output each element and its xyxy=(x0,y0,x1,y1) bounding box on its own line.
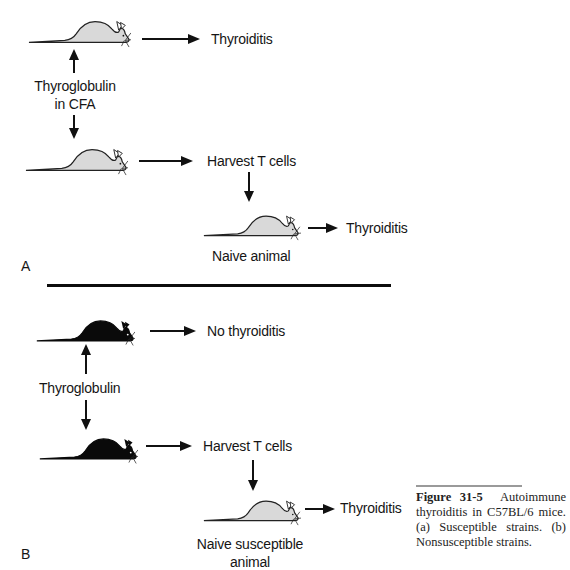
mouse-icon xyxy=(201,494,301,526)
immunization-label-1: Thyroglobulin xyxy=(32,78,118,94)
arrow-right-icon xyxy=(139,156,193,166)
caption-label: Figure 31-5 xyxy=(416,490,483,504)
outcome-label: Thyroiditis xyxy=(346,220,408,236)
recipient-label-1: Naive susceptible xyxy=(190,536,310,552)
panel-divider xyxy=(47,284,391,287)
mouse-icon xyxy=(201,209,301,241)
caption-rule xyxy=(416,485,522,487)
arrow-down-icon xyxy=(248,460,258,491)
panel-letter-b: B xyxy=(21,546,30,562)
arrow-right-icon xyxy=(146,441,192,451)
immunization-label-2: in CFA xyxy=(32,96,118,112)
arrow-down-icon xyxy=(81,400,91,430)
arrow-right-icon xyxy=(142,34,200,44)
caption-text-2: (a) Susceptible strains. (b) Nonsuscepti… xyxy=(416,520,566,549)
outcome-label: Thyroiditis xyxy=(340,500,402,516)
outcome-label: Thyroiditis xyxy=(211,31,273,47)
harvest-label: Harvest T cells xyxy=(203,438,292,454)
arrow-up-icon xyxy=(81,344,91,374)
arrow-right-icon xyxy=(150,326,196,336)
arrow-right-icon xyxy=(308,223,338,233)
recipient-label: Naive animal xyxy=(212,248,291,264)
mouse-icon xyxy=(35,313,135,347)
panel-letter-a: A xyxy=(21,258,30,274)
mouse-icon xyxy=(38,431,138,465)
arrow-down-icon xyxy=(69,115,79,139)
figure-caption: Figure 31-5 Autoimmune thyroiditis in C5… xyxy=(416,490,566,550)
arrow-up-icon xyxy=(69,49,79,73)
outcome-label: No thyroiditis xyxy=(207,323,285,339)
arrow-right-icon xyxy=(305,504,335,514)
recipient-label-2: animal xyxy=(190,554,310,570)
harvest-label: Harvest T cells xyxy=(207,153,296,169)
arrow-down-icon xyxy=(244,172,254,202)
mouse-icon xyxy=(27,14,131,48)
mouse-icon xyxy=(24,142,128,176)
immunization-label: Thyroglobulin xyxy=(39,380,120,396)
